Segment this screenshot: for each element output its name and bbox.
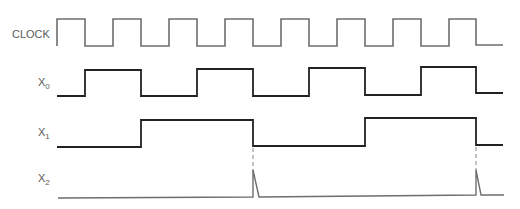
x0-waveform: [57, 67, 503, 96]
x2-waveform: [58, 170, 504, 198]
clock-waveform: [57, 19, 503, 46]
x1-waveform: [57, 118, 503, 147]
timing-waveforms: [0, 0, 520, 209]
